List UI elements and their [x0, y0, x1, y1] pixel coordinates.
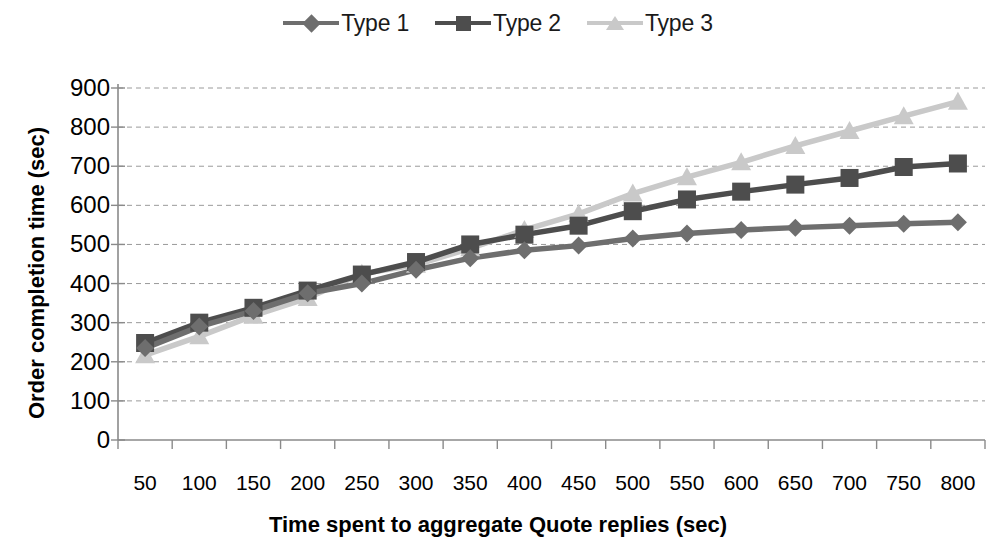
x-axis-tick-label: 200	[290, 472, 325, 493]
chart-container: Type 1 Type 2 Type 3 0100200300400500600…	[0, 0, 996, 546]
x-axis-tick-label: 450	[561, 472, 596, 493]
x-axis-tick-label: 550	[669, 472, 704, 493]
x-axis-tick-label: 150	[236, 472, 271, 493]
y-axis-title: Order completion time (sec)	[26, 73, 48, 473]
x-axis-tick-label: 800	[940, 472, 975, 493]
x-axis-title: Time spent to aggregate Quote replies (s…	[0, 514, 996, 536]
x-axis-tick-label: 100	[182, 472, 217, 493]
x-axis-tick-labels: 5010015020025030035040045050055060065070…	[0, 0, 996, 546]
x-axis-tick-label: 50	[133, 472, 156, 493]
x-axis-tick-label: 400	[507, 472, 542, 493]
x-axis-tick-label: 250	[344, 472, 379, 493]
x-axis-tick-label: 600	[724, 472, 759, 493]
triangle-marker-icon	[606, 16, 624, 30]
x-axis-tick-label: 500	[615, 472, 650, 493]
x-axis-tick-label: 750	[886, 472, 921, 493]
x-axis-tick-label: 650	[778, 472, 813, 493]
x-axis-tick-label: 700	[832, 472, 867, 493]
x-axis-tick-label: 300	[399, 472, 434, 493]
x-axis-tick-label: 350	[453, 472, 488, 493]
square-marker-icon	[456, 16, 471, 31]
